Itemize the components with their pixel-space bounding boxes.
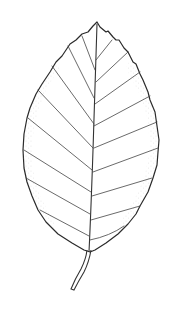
- petiole: [71, 250, 91, 290]
- leaf-illustration: [0, 0, 180, 310]
